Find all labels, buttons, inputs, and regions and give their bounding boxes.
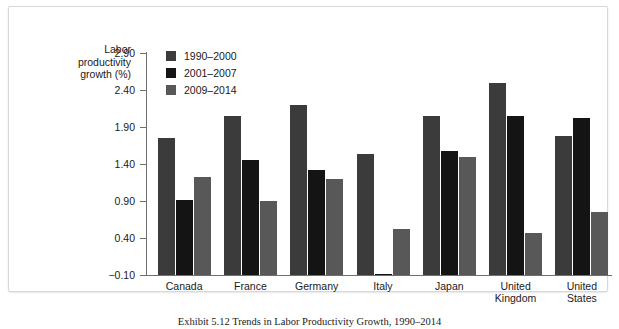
bar[interactable] [224, 116, 241, 275]
plot-area [147, 53, 611, 275]
bar[interactable] [441, 151, 458, 275]
bar[interactable] [260, 201, 277, 275]
y-axis-tick-mark [140, 201, 147, 202]
x-axis-category-label-line: States [536, 292, 619, 304]
y-axis-tick-label: 2.40 [95, 84, 135, 96]
y-axis-tick-label: −0.10 [95, 269, 135, 281]
bar[interactable] [308, 170, 325, 275]
y-axis-tick-label: 0.90 [95, 195, 135, 207]
bar[interactable] [393, 229, 410, 275]
y-axis-tick-mark [140, 164, 147, 165]
x-axis-line [146, 275, 612, 276]
bar-group [555, 53, 608, 275]
bar[interactable] [176, 200, 193, 275]
y-axis-tick-label: 0.40 [95, 232, 135, 244]
bar[interactable] [194, 177, 211, 275]
y-axis-tick-mark [140, 127, 147, 128]
figure-frame: Labor productivity growth (%) 1990–2000 … [8, 6, 608, 292]
y-axis-tick-mark [140, 275, 147, 276]
bar[interactable] [525, 233, 542, 275]
x-axis-category-label: UnitedStates [536, 280, 619, 304]
figure-caption: Exhibit 5.12 Trends in Labor Productivit… [0, 316, 619, 329]
bar[interactable] [158, 138, 175, 275]
bar[interactable] [591, 212, 608, 275]
bar[interactable] [290, 105, 307, 275]
bar[interactable] [242, 160, 259, 275]
bar-group [290, 53, 343, 275]
bar[interactable] [326, 179, 343, 275]
bar[interactable] [375, 274, 392, 276]
bar[interactable] [507, 116, 524, 275]
x-axis-category-label-line: United [536, 280, 619, 292]
bar[interactable] [357, 154, 374, 275]
bar[interactable] [459, 157, 476, 275]
y-axis-tick-label: 1.90 [95, 121, 135, 133]
bar-group [489, 53, 542, 275]
bar[interactable] [555, 136, 572, 275]
bar-group [357, 53, 410, 275]
y-axis-tick-mark [140, 90, 147, 91]
bar-group [158, 53, 211, 275]
y-axis-tick-mark [140, 53, 147, 54]
bar[interactable] [489, 83, 506, 275]
y-axis-tick-mark [140, 238, 147, 239]
y-axis-tick-label: 2.90 [95, 47, 135, 59]
bar-group [423, 53, 476, 275]
bar[interactable] [573, 118, 590, 275]
y-axis-tick-label: 1.40 [95, 158, 135, 170]
bar-group [224, 53, 277, 275]
y-axis-labels: 2.902.401.901.400.900.40−0.10 [95, 7, 135, 329]
bar[interactable] [423, 116, 440, 275]
figure-page: Labor productivity growth (%) 1990–2000 … [0, 0, 619, 329]
